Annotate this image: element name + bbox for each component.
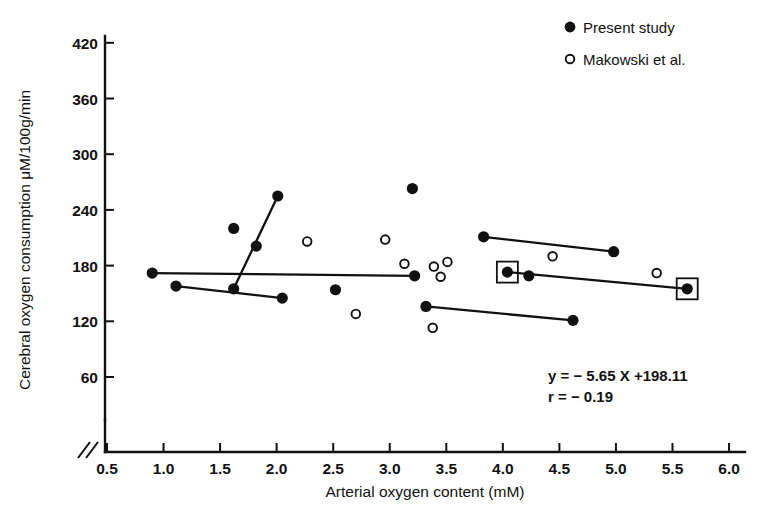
y-tick-label-180: 180 — [72, 258, 98, 275]
x-tick-label-group: 0.51.01.52.02.53.03.54.04.55.05.56.0 — [96, 460, 740, 477]
legend-label-present-study: Present study — [583, 19, 675, 36]
data-point-present-study-0 — [147, 267, 158, 278]
data-point-present-study-11 — [478, 231, 489, 242]
data-point-makowski-8 — [548, 252, 557, 261]
data-point-makowski-9 — [652, 269, 661, 278]
paired-observation-lines — [152, 196, 687, 320]
x-axis — [78, 442, 745, 458]
x-axis-title: Arterial oxygen content (mM) — [326, 483, 525, 500]
x-tick-label-4.0: 4.0 — [492, 460, 514, 477]
data-point-present-study-16 — [682, 283, 693, 294]
y-tick-label-120: 120 — [72, 313, 98, 330]
x-tick-label-1.0: 1.0 — [153, 460, 175, 477]
data-point-present-study-14 — [567, 315, 578, 326]
regression-equation: y = − 5.65 X +198.11 — [548, 367, 688, 384]
data-point-makowski-6 — [443, 258, 452, 267]
x-tick-label-3.5: 3.5 — [436, 460, 458, 477]
paired-line-0 — [152, 273, 414, 276]
legend-marker-open-circle-icon — [566, 55, 575, 64]
y-tick-label-360: 360 — [72, 91, 98, 108]
y-tick-label-60: 60 — [81, 369, 98, 386]
x-tick-label-4.5: 4.5 — [549, 460, 571, 477]
y-tick-label-420: 420 — [72, 35, 98, 52]
data-point-makowski-3 — [400, 259, 409, 268]
x-tick-label-3.0: 3.0 — [379, 460, 401, 477]
data-point-present-study-15 — [608, 246, 619, 257]
data-point-makowski-7 — [436, 272, 445, 281]
correlation-coefficient: r = − 0.19 — [548, 388, 613, 405]
data-point-makowski-2 — [381, 235, 390, 244]
data-point-present-study-13 — [523, 270, 534, 281]
data-point-present-study-10 — [420, 301, 431, 312]
data-point-present-study-2 — [228, 223, 239, 234]
series-present-study-points — [147, 183, 693, 326]
y-tick-label-group: 60120180240300360420 — [72, 35, 98, 386]
data-point-makowski-1 — [352, 310, 361, 319]
x-tick-label-5.0: 5.0 — [605, 460, 627, 477]
data-point-makowski-4 — [428, 324, 437, 333]
chart-figure: 60120180240300360420 0.51.01.52.02.53.03… — [0, 0, 767, 515]
y-tick-group — [105, 43, 114, 377]
paired-line-3 — [484, 237, 614, 252]
data-point-present-study-6 — [277, 292, 288, 303]
data-point-present-study-5 — [272, 190, 283, 201]
x-tick-label-2.0: 2.0 — [266, 460, 288, 477]
y-tick-label-240: 240 — [72, 202, 98, 219]
x-tick-group — [107, 443, 729, 452]
regression-annotation: y = − 5.65 X +198.11 r = − 0.19 — [548, 367, 688, 405]
x-tick-label-6.0: 6.0 — [718, 460, 740, 477]
y-axis-title: Cerebral oxygen consumption μM/100g/min — [16, 90, 33, 390]
data-point-present-study-4 — [251, 241, 262, 252]
data-point-makowski-0 — [303, 237, 312, 246]
legend-marker-filled-circle-icon — [565, 22, 576, 33]
data-point-present-study-3 — [228, 283, 239, 294]
paired-line-5 — [426, 306, 573, 320]
data-point-makowski-5 — [430, 262, 439, 271]
legend: Present study Makowski et al. — [565, 19, 686, 68]
x-tick-label-1.5: 1.5 — [209, 460, 231, 477]
x-tick-label-5.5: 5.5 — [662, 460, 684, 477]
data-point-present-study-12 — [502, 267, 513, 278]
data-point-present-study-7 — [330, 284, 341, 295]
scatter-plot-canvas: 60120180240300360420 0.51.01.52.02.53.03… — [0, 0, 767, 515]
data-point-present-study-8 — [407, 183, 418, 194]
x-tick-label-0.5: 0.5 — [96, 460, 118, 477]
legend-label-makowski: Makowski et al. — [583, 51, 686, 68]
x-tick-label-2.5: 2.5 — [322, 460, 344, 477]
y-tick-label-300: 300 — [72, 146, 98, 163]
data-point-present-study-9 — [409, 270, 420, 281]
data-point-present-study-1 — [170, 280, 181, 291]
